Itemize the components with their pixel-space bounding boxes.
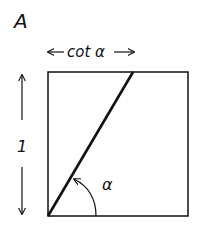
angle-arc-icon [74, 179, 96, 216]
width-label: cot α [67, 43, 105, 61]
unit-square [48, 72, 188, 216]
height-label: 1 [17, 137, 27, 156]
angle-label: α [102, 175, 113, 194]
panel-label: A [12, 9, 28, 33]
diagram: A cot α 1 α [0, 0, 197, 227]
